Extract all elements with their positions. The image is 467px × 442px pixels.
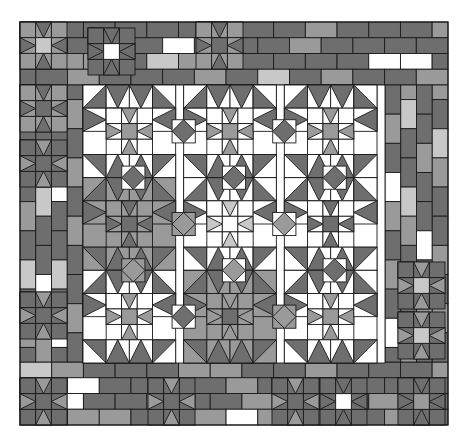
star-center-square [104, 44, 120, 60]
star-corner [20, 22, 36, 38]
border-brick-top [305, 22, 337, 38]
star-corner [51, 140, 67, 156]
star-corner [207, 232, 222, 247]
star-corner [137, 324, 152, 339]
star-corner [119, 28, 135, 44]
border-brick-right [401, 129, 417, 158]
border-brick-bottom [68, 378, 100, 394]
border-brick-top [353, 69, 385, 85]
star-in-star-block [83, 270, 176, 363]
star-corner [429, 409, 445, 425]
sawtooth-star-block [20, 22, 67, 69]
star-corner [20, 85, 36, 101]
star-center-square [36, 156, 52, 172]
border-brick-bottom [115, 394, 147, 410]
border-brick-right [385, 143, 401, 172]
border-brick-top [226, 69, 258, 85]
border-brick-right [417, 114, 433, 143]
border-brick-top [432, 54, 448, 70]
border-brick-top [353, 38, 385, 54]
star-corner [238, 324, 253, 339]
border-brick-left [67, 85, 83, 100]
sawtooth-star-block [207, 201, 253, 247]
border-brick-top [400, 22, 432, 38]
border-brick-left [20, 347, 36, 362]
border-brick-left [52, 260, 68, 289]
star-corner [20, 53, 36, 69]
border-brick-top [369, 54, 401, 70]
border-brick-left [67, 333, 83, 362]
star-center-square [323, 309, 338, 324]
star-corner [207, 201, 222, 216]
border-brick-bottom [20, 362, 52, 378]
border-brick-right [385, 202, 401, 231]
border-brick-left [67, 100, 83, 129]
border-brick-left [20, 231, 36, 260]
border-brick-right [401, 216, 417, 245]
border-brick-bottom [274, 362, 306, 378]
border-brick-left [67, 216, 83, 245]
border-brick-right [401, 158, 417, 187]
star-corner [320, 409, 336, 425]
border-brick-right [417, 172, 433, 201]
star-corner [88, 28, 104, 44]
sawtooth-star-block [106, 201, 152, 247]
sawtooth-star-block [398, 312, 445, 359]
border-brick-bottom [369, 394, 401, 410]
border-brick-bottom [194, 378, 226, 394]
star-corner [238, 201, 253, 216]
star-corner [338, 324, 353, 339]
star-corner [207, 294, 222, 309]
star-corner [51, 171, 67, 187]
border-brick-bottom [194, 409, 226, 425]
star-corner [179, 378, 195, 394]
star-corner [398, 312, 414, 328]
sawtooth-star-block [308, 294, 354, 340]
star-corner [338, 201, 353, 216]
star-corner [429, 343, 445, 359]
border-brick-right [417, 202, 433, 231]
border-brick-bottom [83, 362, 115, 378]
star-corner [338, 294, 353, 309]
star-in-star-block [83, 85, 176, 178]
star-corner [106, 232, 121, 247]
border-brick-left [36, 245, 52, 274]
border-brick-bottom [68, 409, 100, 425]
star-center-square [36, 38, 52, 54]
border-brick-top [242, 22, 274, 38]
star-corner [106, 201, 121, 216]
sawtooth-star-block [196, 22, 243, 69]
sawtooth-star-block [106, 108, 152, 154]
star-in-star-block [284, 85, 377, 178]
star-corner [398, 262, 414, 278]
border-brick-bottom [242, 394, 274, 410]
star-center-square [222, 124, 237, 139]
border-brick-right [432, 158, 448, 187]
border-brick-top [385, 38, 417, 54]
star-center-square [36, 308, 52, 324]
border-brick-left [36, 187, 52, 216]
star-center-square [122, 309, 137, 324]
border-brick-top [163, 38, 195, 54]
star-corner [308, 139, 323, 154]
sawtooth-star-block [148, 378, 195, 425]
star-corner [429, 293, 445, 309]
star-corner [137, 294, 152, 309]
sawtooth-star-block [207, 108, 253, 154]
star-center-square [414, 394, 430, 410]
star-corner [303, 409, 319, 425]
border-brick-left [67, 129, 83, 158]
border-brick-right [417, 231, 433, 260]
sawtooth-star-block [308, 108, 354, 154]
border-brick-left [52, 202, 68, 231]
star-corner [338, 232, 353, 247]
border-brick-right [432, 129, 448, 158]
star-corner [338, 139, 353, 154]
star-corner [398, 343, 414, 359]
sawtooth-star-block [20, 140, 67, 187]
star-corner [137, 108, 152, 123]
sawtooth-star-block [398, 262, 445, 309]
star-corner [137, 232, 152, 247]
star-center-square [323, 216, 338, 231]
star-corner [398, 409, 414, 425]
